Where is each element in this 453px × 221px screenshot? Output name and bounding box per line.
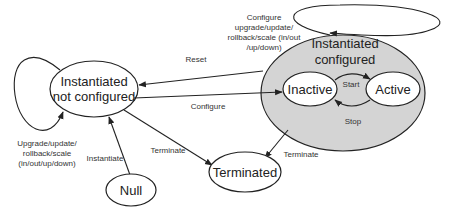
svg-text:/up/down): /up/down)	[246, 43, 281, 52]
state-active: Active	[366, 72, 420, 106]
label-not-configured-self-loop: Upgrade/update/ rollback/scale (in/out/u…	[17, 139, 77, 168]
state-inactive: Inactive	[283, 72, 337, 106]
svg-text:upgrade/update/: upgrade/update/	[235, 23, 294, 32]
label-start: Start	[343, 80, 361, 89]
label-instantiate: Instantiate	[87, 154, 124, 163]
svg-text:not configured: not configured	[53, 89, 135, 104]
state-terminated: Terminated	[209, 152, 281, 192]
svg-text:Active: Active	[375, 82, 410, 97]
label-terminate-configured: Terminate	[283, 150, 319, 159]
edge-reset	[139, 71, 263, 85]
edge-instantiate	[109, 117, 130, 175]
svg-text:Null: Null	[120, 183, 143, 198]
state-instantiated-not-configured: Instantiated not configured	[50, 61, 138, 117]
svg-text:rollback/scale: rollback/scale	[23, 149, 72, 158]
svg-text:Terminated: Terminated	[213, 165, 277, 180]
label-configured-self-loop: Configure upgrade/update/ rollback/scale…	[228, 13, 302, 52]
edge-configured-self-loop	[294, 5, 440, 36]
state-null: Null	[106, 174, 156, 206]
edge-configure	[134, 92, 282, 98]
svg-text:(in/out/up/down): (in/out/up/down)	[18, 159, 76, 168]
state-diagram: Instantiated configured Configure upgrad…	[0, 0, 453, 221]
svg-text:Upgrade/update/: Upgrade/update/	[17, 139, 77, 148]
svg-text:Configure: Configure	[247, 13, 282, 22]
svg-text:Instantiated: Instantiated	[60, 74, 127, 89]
svg-text:rollback/scale (in/out: rollback/scale (in/out	[228, 33, 302, 42]
label-reset: Reset	[186, 55, 208, 64]
label-stop: Stop	[345, 117, 362, 126]
edge-terminate-not-configured	[124, 110, 212, 165]
label-configure: Configure	[191, 102, 226, 111]
svg-text:Inactive: Inactive	[288, 82, 333, 97]
state-instantiated-configured-label-2: configured	[315, 52, 376, 67]
state-instantiated-configured-label-1: Instantiated	[311, 36, 378, 51]
label-terminate-not-configured: Terminate	[150, 146, 186, 155]
